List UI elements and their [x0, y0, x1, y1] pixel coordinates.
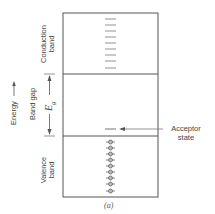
acceptor-state-label: Acceptor state: [163, 124, 209, 142]
band-gap-label: Band gap: [29, 84, 37, 124]
valence-band-label: Valence band: [40, 145, 56, 195]
energy-arrowhead: [12, 81, 16, 86]
acceptor-arrowhead: [119, 127, 125, 131]
energy-label: Energy: [10, 93, 18, 133]
valence-levels: [106, 140, 115, 193]
conduction-levels: [105, 19, 116, 68]
figure-caption: (a): [104, 201, 113, 210]
conduction-band-label: Conduction band: [40, 19, 56, 69]
band-gap-symbol: Eg: [43, 97, 57, 111]
band-box: [63, 13, 158, 197]
